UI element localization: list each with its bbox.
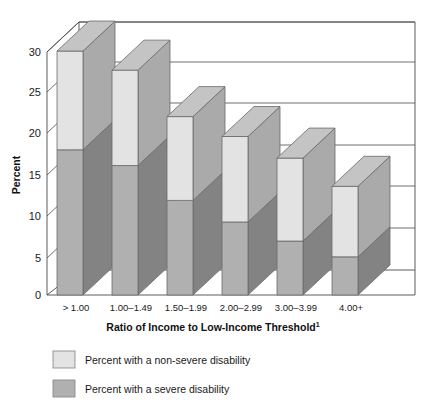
- y-tick-20: 20: [29, 127, 41, 139]
- y-tick-5: 5: [35, 252, 41, 264]
- legend-swatch-severe: [53, 380, 75, 397]
- x-category-label-6: 4.00+: [339, 302, 363, 313]
- y-tick-0: 0: [35, 289, 41, 301]
- x-category-label-3: 1.50–1.99: [165, 302, 207, 313]
- chart-container: 30 25 20 15 10 5 0 Percent > 1.001.00–1.…: [0, 0, 434, 406]
- y-axis-title: Percent: [10, 155, 22, 194]
- x-axis-categories: > 1.001.00–1.491.50–1.992.00–2.993.00–3.…: [63, 302, 364, 313]
- x-axis-title-superscript: 1: [316, 321, 320, 328]
- bar-column-3[interactable]: [167, 87, 225, 295]
- legend-label-severe: Percent with a severe disability: [85, 383, 230, 395]
- x-axis-title-group: Ratio of Income to Low-Income Threshold1: [106, 321, 319, 333]
- y-tick-10: 10: [29, 210, 41, 222]
- x-axis-title: Ratio of Income to Low-Income Threshold1: [106, 321, 319, 333]
- x-category-label-4: 2.00–2.99: [220, 302, 262, 313]
- x-category-label-2: 1.00–1.49: [110, 302, 152, 313]
- bar-column-2[interactable]: [112, 40, 170, 295]
- legend: Percent with a non-severe disability Per…: [53, 351, 251, 397]
- y-axis-ticks: 30 25 20 15 10 5 0: [29, 46, 41, 301]
- bar-column-1[interactable]: [57, 21, 115, 295]
- y-tick-15: 15: [29, 169, 41, 181]
- legend-swatch-non-severe: [53, 351, 75, 368]
- bar-column-4[interactable]: [222, 107, 280, 295]
- y-tick-30: 30: [29, 46, 41, 58]
- bar-chart-svg: 30 25 20 15 10 5 0 Percent > 1.001.00–1.…: [0, 0, 434, 406]
- x-axis-title-text: Ratio of Income to Low-Income Threshold: [106, 321, 315, 333]
- x-category-label-5: 3.00–3.99: [275, 302, 317, 313]
- bar-column-5[interactable]: [277, 128, 335, 295]
- y-tick-25: 25: [29, 86, 41, 98]
- legend-label-non-severe: Percent with a non-severe disability: [85, 354, 251, 366]
- x-category-label-1: > 1.00: [63, 302, 90, 313]
